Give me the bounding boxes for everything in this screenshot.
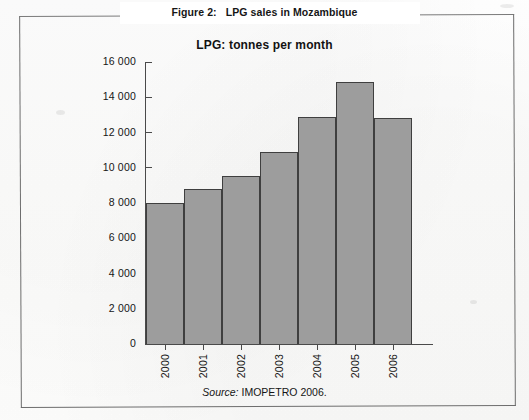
x-axis-line — [145, 344, 433, 345]
figure-caption-text: LPG sales in Mozambique — [226, 6, 358, 18]
bar-slot: 2003 — [260, 62, 298, 344]
y-axis-tick-label: 16 000 — [103, 55, 136, 67]
bar-series: 2000200120022003200420052006 — [146, 62, 412, 344]
figure-caption-number: Figure 2: — [171, 6, 216, 18]
scan-speck — [470, 300, 477, 304]
x-axis-tick-mark — [279, 344, 280, 350]
y-axis-tick-label: 14 000 — [103, 90, 136, 102]
figure-caption: Figure 2:LPG sales in Mozambique — [0, 6, 529, 18]
bar-2005[interactable] — [336, 82, 374, 344]
bar-slot: 2006 — [374, 62, 412, 344]
bar-2003[interactable] — [260, 152, 298, 344]
y-axis-tick-label: 2 000 — [109, 302, 136, 314]
x-axis-label-2001: 2001 — [197, 354, 209, 378]
bar-slot: 2000 — [146, 62, 184, 344]
bar-2004[interactable] — [298, 117, 336, 344]
x-axis-tick-mark — [355, 344, 356, 350]
x-axis-label-2005: 2005 — [349, 354, 361, 378]
source-label: Source: — [202, 386, 238, 398]
y-axis-tick-label: 10 000 — [103, 161, 136, 173]
x-axis-tick-mark — [317, 344, 318, 350]
x-axis-label-2000: 2000 — [159, 354, 171, 378]
x-axis-label-2003: 2003 — [273, 354, 285, 378]
y-axis-tick-label: 4 000 — [109, 267, 136, 279]
bar-2002[interactable] — [222, 176, 260, 344]
y-axis-tick-label: 0 — [130, 337, 136, 349]
y-axis-tick-label: 8 000 — [109, 196, 136, 208]
bar-slot: 2005 — [336, 62, 374, 344]
x-axis-label-2004: 2004 — [311, 354, 323, 378]
source-text: IMOPETRO 2006. — [241, 386, 326, 398]
bar-chart-plot-area: 02 0004 0006 0008 00010 00012 00014 0001… — [146, 62, 412, 344]
bar-2001[interactable] — [184, 189, 222, 344]
y-axis-tick-label: 12 000 — [103, 126, 136, 138]
source-note: Source:IMOPETRO 2006. — [0, 386, 529, 398]
x-axis-tick-mark — [165, 344, 166, 350]
x-axis-label-2006: 2006 — [387, 354, 399, 378]
bar-slot: 2002 — [222, 62, 260, 344]
x-axis-label-2002: 2002 — [235, 354, 247, 378]
bar-slot: 2001 — [184, 62, 222, 344]
bar-slot: 2004 — [298, 62, 336, 344]
x-axis-tick-mark — [241, 344, 242, 350]
y-axis-tick-label: 6 000 — [109, 231, 136, 243]
bar-2006[interactable] — [374, 118, 412, 344]
bar-2000[interactable] — [146, 203, 184, 344]
x-axis-tick-mark — [203, 344, 204, 350]
chart-title: LPG: tonnes per month — [0, 38, 529, 52]
x-axis-tick-mark — [393, 344, 394, 350]
scan-speck — [56, 110, 65, 115]
